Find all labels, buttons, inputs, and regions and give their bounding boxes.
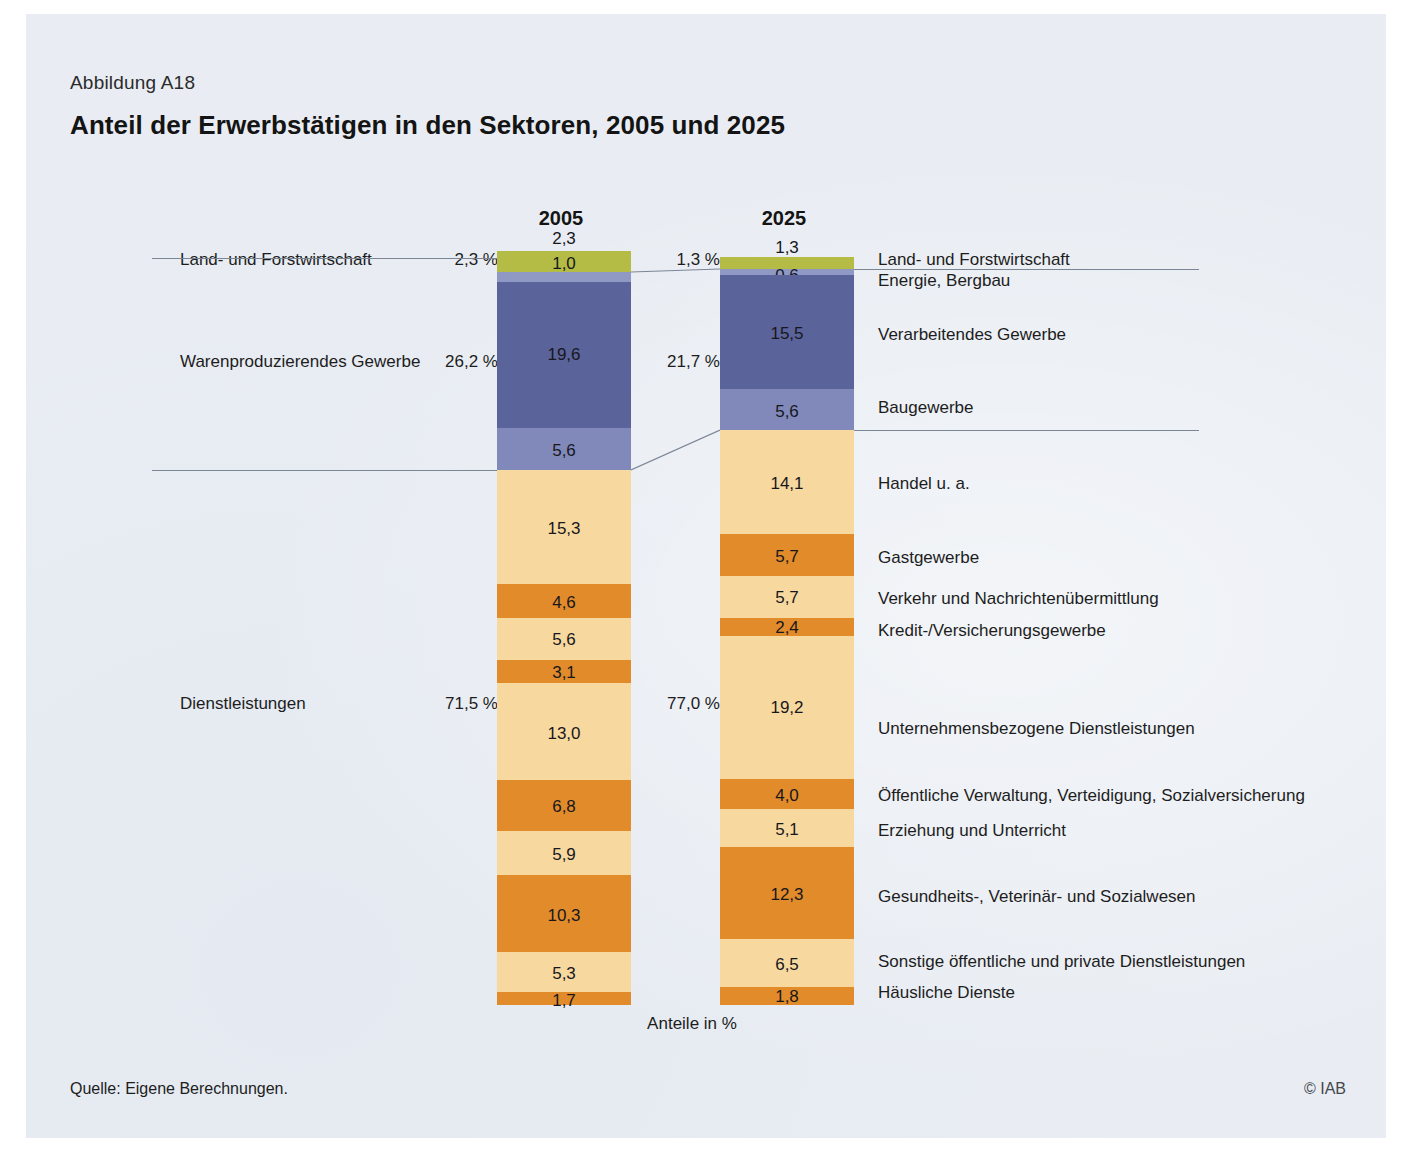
branch-label-land-und-forstwirtschaft: Land- und Forstwirtschaft (878, 251, 1070, 268)
segment-value: 1,0 (497, 255, 631, 272)
segment-2025-erziehung-unterricht[interactable]: 5,1 (720, 809, 854, 847)
segment-value: 5,9 (497, 846, 631, 863)
segment-value: 15,5 (720, 325, 854, 342)
segment-value: 5,6 (497, 631, 631, 648)
segment-2005-kredit-versicherung[interactable]: 3,1 (497, 660, 631, 683)
segment-value: 10,3 (497, 907, 631, 924)
segment-value: 5,6 (720, 403, 854, 420)
segment-2005-haeusliche-dienste[interactable]: 1,7 (497, 992, 631, 1005)
branch-label-kredit-versicherung: Kredit-/Versicherungsgewerbe (878, 622, 1106, 639)
segment-2005-verarbeitendes-gewerbe[interactable]: 19,6 (497, 282, 631, 428)
segment-2005-erziehung-unterricht[interactable]: 5,9 (497, 831, 631, 875)
group-pct-2025-manufacturing: 21,7 % (666, 353, 720, 370)
segment-2025-kredit-versicherung[interactable]: 2,4 (720, 618, 854, 636)
segment-2005-unternehmensbezogene-dienstleistungen[interactable]: 13,0 (497, 683, 631, 780)
segment-2005-sonstige-dienstleistungen[interactable]: 5,3 (497, 952, 631, 992)
group-pct-2005-manufacturing: 26,2 % (440, 353, 498, 370)
figure-panel: Abbildung A18 Anteil der Erwerbstätigen … (26, 14, 1386, 1138)
segment-value: 15,3 (497, 520, 631, 537)
segment-value: 14,1 (720, 475, 854, 492)
group-label-services-left: Dienstleistungen (180, 695, 306, 712)
branch-label-sonstige-dienstleistungen: Sonstige öffentliche und private Dienstl… (878, 953, 1245, 970)
branch-label-energie-bergbau: Energie, Bergbau (878, 272, 1010, 289)
segment-value: 13,0 (497, 725, 631, 742)
segment-value: 5,7 (720, 548, 854, 565)
branch-label-verarbeitendes-gewerbe: Verarbeitendes Gewerbe (878, 326, 1066, 343)
source-note: Quelle: Eigene Berechnungen. (70, 1080, 288, 1098)
branch-label-gesundheitswesen: Gesundheits-, Veterinär- und Sozialwesen (878, 888, 1196, 905)
axis-caption: Anteile in % (582, 1014, 802, 1034)
segment-2005-baugewerbe[interactable]: 5,6 (497, 428, 631, 470)
divider-agriculture-left (152, 258, 497, 259)
divider-goods-right (854, 430, 1199, 431)
segment-value: 5,1 (720, 821, 854, 838)
segment-2025-handel[interactable]: 14,1 (720, 430, 854, 534)
segment-value: 1,7 (497, 992, 631, 1009)
segment-2025-haeusliche-dienste[interactable]: 1,8 (720, 987, 854, 1005)
segment-value: 6,8 (497, 798, 631, 815)
segment-value: 2,3 (497, 230, 631, 247)
segment-2005-energie-bergbau[interactable]: 1,0 (497, 272, 631, 282)
segment-2025-oeffentliche-verwaltung[interactable]: 4,0 (720, 779, 854, 809)
figure-number: Abbildung A18 (70, 72, 195, 94)
branch-label-unternehmensbezogene: Unternehmensbezogene Dienstleistungen (878, 720, 1195, 737)
divider-agriculture-right (854, 269, 1199, 270)
column-header-2025: 2025 (714, 207, 854, 230)
segment-2025-verkehr[interactable]: 5,7 (720, 576, 854, 618)
segment-value: 1,8 (720, 988, 854, 1005)
segment-2025-sonstige-dienstleistungen[interactable]: 6,5 (720, 939, 854, 987)
connector-goods (631, 422, 720, 478)
segment-value: 5,6 (497, 442, 631, 459)
segment-value: 4,0 (720, 787, 854, 804)
segment-2025-baugewerbe[interactable]: 5,6 (720, 389, 854, 430)
segment-2025-gesundheitswesen[interactable]: 12,3 (720, 847, 854, 939)
segment-2025-unternehmensbezogene-dienstleistungen[interactable]: 19,2 (720, 636, 854, 779)
branch-label-baugewerbe: Baugewerbe (878, 399, 973, 416)
branch-label-handel: Handel u. a. (878, 475, 970, 492)
segment-2025-verarbeitendes-gewerbe[interactable]: 15,5 (720, 275, 854, 389)
divider-goods-left (152, 470, 497, 471)
segment-2005-gastgewerbe[interactable]: 4,6 (497, 584, 631, 618)
segment-2025-gastgewerbe[interactable]: 5,7 (720, 534, 854, 576)
segment-value: 6,5 (720, 956, 854, 973)
copyright-credit: © IAB (1304, 1080, 1346, 1098)
group-pct-2005-services: 71,5 % (440, 695, 498, 712)
branch-label-oeffentliche-verwaltung: Öffentliche Verwaltung, Verteidigung, So… (878, 787, 1305, 804)
segment-value: 19,2 (720, 699, 854, 716)
segment-value: 12,3 (720, 886, 854, 903)
segment-value: 1,3 (720, 239, 854, 256)
column-header-2005: 2005 (491, 207, 631, 230)
segment-value: 2,4 (720, 619, 854, 636)
segment-2005-oeffentliche-verwaltung[interactable]: 6,8 (497, 780, 631, 831)
segment-value: 5,3 (497, 965, 631, 982)
group-pct-2025-services: 77,0 % (666, 695, 720, 712)
branch-label-haeusliche-dienste: Häusliche Dienste (878, 984, 1015, 1001)
branch-label-gastgewerbe: Gastgewerbe (878, 549, 979, 566)
segment-2005-verkehr[interactable]: 5,6 (497, 618, 631, 660)
group-label-agriculture-left: Land- und Forstwirtschaft (180, 251, 372, 268)
group-pct-2005-agriculture: 2,3 % (440, 251, 498, 268)
segment-value: 3,1 (497, 664, 631, 681)
group-label-manufacturing-left: Warenproduzierendes Gewerbe (180, 353, 420, 370)
branch-label-verkehr: Verkehr und Nachrichtenübermittlung (878, 590, 1159, 607)
connector-agriculture (631, 252, 720, 278)
segment-2005-handel[interactable]: 15,3 (497, 470, 631, 584)
segment-value: 19,6 (497, 346, 631, 363)
segment-value: 4,6 (497, 594, 631, 611)
segment-value: 5,7 (720, 589, 854, 606)
branch-label-erziehung-unterricht: Erziehung und Unterricht (878, 822, 1066, 839)
segment-2005-gesundheitswesen[interactable]: 10,3 (497, 875, 631, 952)
figure-title: Anteil der Erwerbstätigen in den Sektore… (70, 110, 785, 141)
